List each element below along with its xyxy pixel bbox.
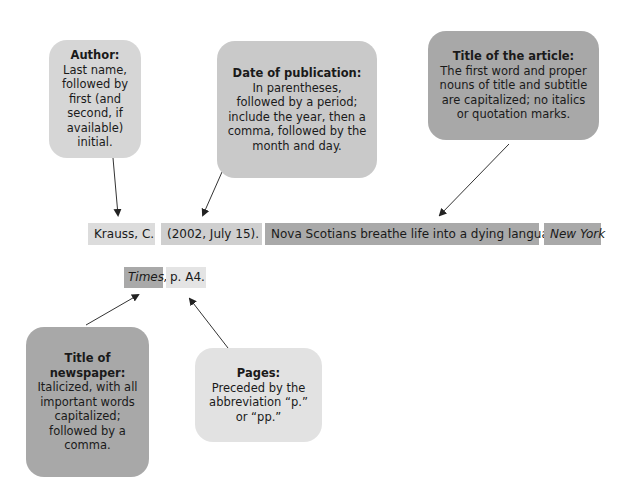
author-callout-heading: Author: [71,48,120,62]
newspaper-arrow [86,295,138,325]
newspaper-title-callout-heading: Title of newspaper: [36,351,139,380]
author-callout-body: Last name, followed by first (and second… [62,63,128,150]
citation-article-title: Nova Scotians breathe life into a dying … [265,223,539,245]
date-callout-heading: Date of publication: [227,66,367,81]
author-callout: Author: Last name, followed by first (an… [49,40,141,158]
article-title-callout: Title of the article: The first word and… [428,31,599,140]
newspaper-title-callout: Title of newspaper: Italicized, with all… [26,327,149,477]
pages-callout-body: Preceded by the abbreviation “p.” or “pp… [203,381,314,425]
date-arrow [203,172,222,215]
article-title-callout-body: The first word and proper nouns of title… [436,64,591,122]
newspaper-title-callout-body: Italicized, with all important words cap… [36,380,139,453]
citation-author: Krauss, C. [88,223,155,245]
date-callout: Date of publication: In parentheses, fol… [217,41,377,178]
citation-pages: p. A4. [166,267,206,288]
article-title-callout-heading: Title of the article: [436,49,591,64]
citation-newspaper-part1: New York [544,223,601,245]
author-arrow [113,158,118,215]
citation-newspaper-part2: Times, [124,267,163,288]
pages-arrow [190,299,228,348]
pages-callout-heading: Pages: [203,366,314,381]
citation-date: (2002, July 15). [161,223,262,245]
pages-callout: Pages: Preceded by the abbreviation “p.”… [195,348,322,442]
date-callout-body: In parentheses, followed by a period; in… [227,81,367,154]
article-title-arrow [440,144,509,215]
